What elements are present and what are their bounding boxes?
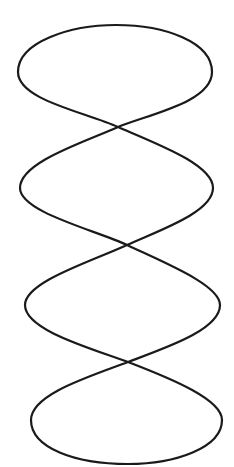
loop-strand (18, 25, 222, 464)
twisted-loops-diagram (0, 0, 234, 467)
